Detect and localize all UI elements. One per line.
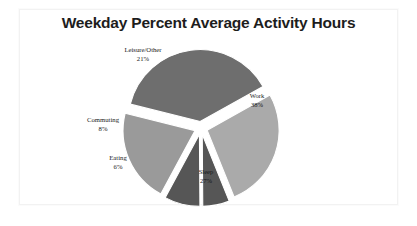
pie-value-work: 38%: [251, 101, 264, 108]
pie-label-eating: Eating: [109, 154, 127, 161]
pie-value-commuting: 8%: [99, 125, 108, 132]
pie-value-eating: 6%: [114, 163, 123, 170]
pie-label-work: Work: [250, 92, 265, 99]
pie-chart: Work38%Sleep27%Eating6%Commuting8%Leisur…: [0, 0, 417, 226]
pie-label-sleep: Sleep: [199, 168, 214, 175]
pie-value-sleep: 27%: [200, 177, 213, 184]
pie-label-commuting: Commuting: [87, 116, 120, 123]
pie-chart-svg: Work38%Sleep27%Eating6%Commuting8%Leisur…: [0, 0, 417, 226]
pie-value-leisure-other: 21%: [137, 55, 150, 62]
pie-label-leisure-other: Leisure/Other: [124, 46, 162, 53]
chart-figure: Weekday Percent Average Activity Hours W…: [0, 0, 417, 226]
